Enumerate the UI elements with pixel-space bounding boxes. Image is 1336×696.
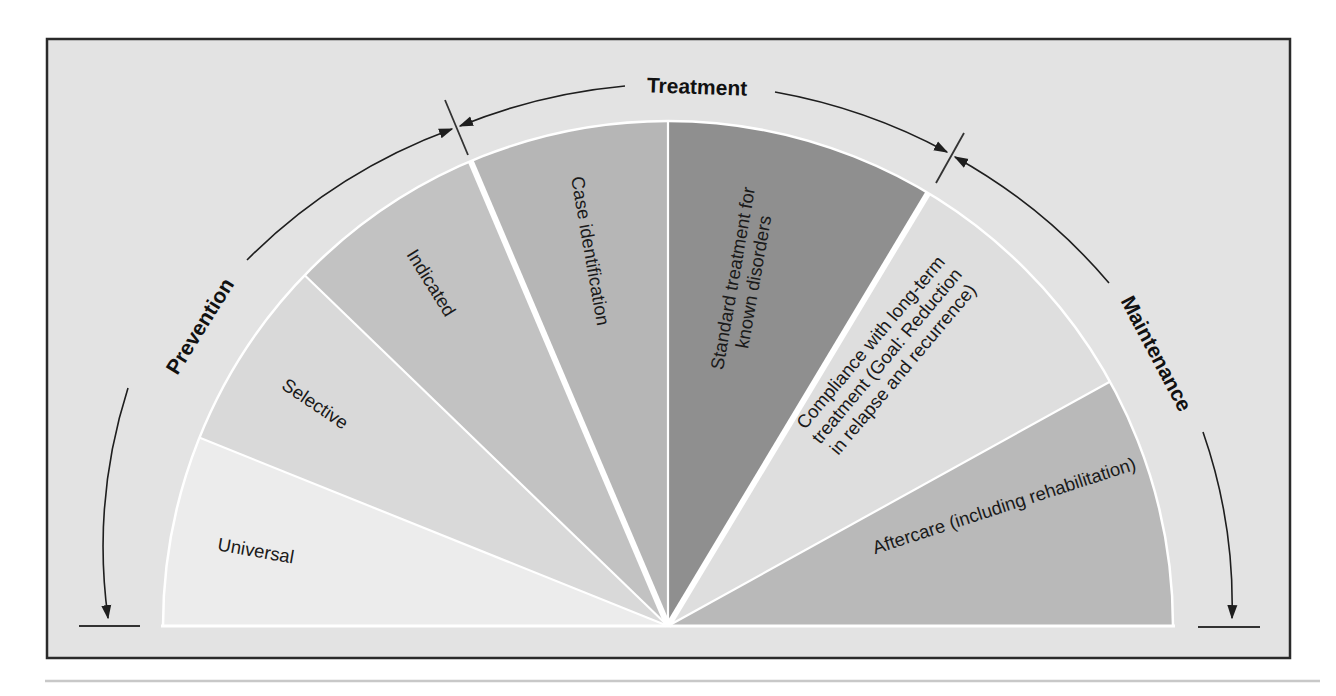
phase-label-treatment: Treatment (646, 73, 747, 99)
intervention-spectrum-diagram: Treatment Prevention Maintenance Univers… (0, 0, 1336, 696)
